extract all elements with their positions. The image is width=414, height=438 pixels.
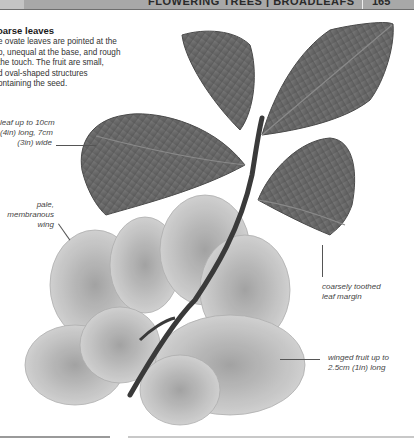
callout-line: coarsely toothed (322, 282, 381, 292)
callout-line: leaf up to 10cm (0, 118, 52, 128)
callout-margin: coarsely toothed leaf margin (322, 282, 381, 302)
leaf-top-right (262, 23, 393, 135)
leader-line-fruit (280, 359, 320, 360)
callout-line: winged fruit up to (328, 353, 389, 363)
callout-line: (4in) long, 7cm (0, 128, 52, 138)
callout-line: (3in) wide (0, 138, 52, 148)
leaf-top-middle (182, 31, 254, 130)
callout-leaf-size: leaf up to 10cm (4in) long, 7cm (3in) wi… (0, 118, 52, 147)
leader-line-margin (322, 245, 323, 277)
leader-line-leaf-size (56, 145, 96, 146)
callout-fruit: winged fruit up to 2.5cm (1in) long (328, 353, 389, 373)
leaf-lower-right (258, 138, 355, 235)
callout-wing: pale, membranous wing (0, 200, 54, 229)
callout-line: membranous (0, 210, 54, 220)
callout-line: leaf margin (322, 292, 381, 302)
winged-fruit-cluster (25, 195, 305, 425)
callout-line: pale, (0, 200, 54, 210)
callout-line: 2.5cm (1in) long (328, 363, 389, 373)
callout-line: wing (0, 220, 54, 230)
